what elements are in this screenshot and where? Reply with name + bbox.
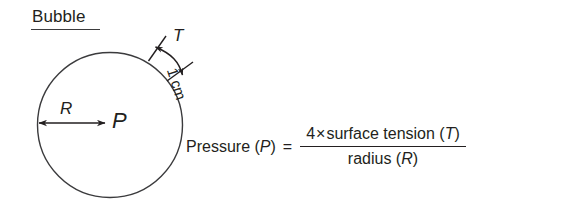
- fraction: 4×surface tension (T) radius (R): [300, 126, 466, 167]
- bubble-pressure-figure: Bubble R P T 1: [0, 0, 563, 211]
- equation-lhs-close-paren: ): [270, 138, 275, 155]
- fraction-numerator: 4×surface tension (T): [300, 126, 466, 142]
- denominator-close-paren: ): [413, 150, 418, 167]
- denominator-variable: R: [401, 150, 413, 167]
- equation-lhs-text: Pressure (: [186, 138, 260, 155]
- numerator-close-paren: ): [454, 125, 459, 142]
- bubble-diagram: [0, 0, 563, 211]
- radius-label: R: [60, 100, 72, 117]
- surface-tension-label: T: [173, 27, 183, 44]
- numerator-variable: T: [445, 125, 455, 142]
- numerator-coefficient: 4: [306, 125, 315, 142]
- fraction-bar: [300, 146, 466, 147]
- pressure-equation: Pressure (P) = 4×surface tension (T) rad…: [186, 126, 466, 167]
- equation-lhs-variable: P: [260, 138, 271, 155]
- bubble-circle: [38, 53, 183, 198]
- equals-sign: =: [283, 139, 300, 155]
- equation-left-side: Pressure (P): [186, 139, 283, 155]
- denominator-text: radius (: [348, 150, 401, 167]
- fraction-denominator: radius (R): [342, 151, 424, 167]
- pressure-label: P: [112, 110, 127, 132]
- multiplication-sign: ×: [315, 125, 326, 142]
- numerator-text: surface tension (: [326, 125, 444, 142]
